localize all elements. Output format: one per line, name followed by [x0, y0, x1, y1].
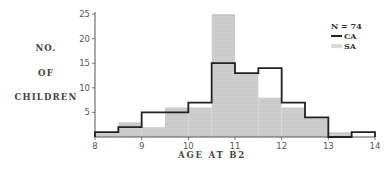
tick-label: 8	[92, 141, 97, 151]
n-annotation: N = 74	[331, 21, 362, 31]
tick-label: 12	[276, 141, 287, 151]
tick-label: 14	[370, 141, 381, 151]
stipple-swatch-icon	[331, 44, 342, 48]
legend-item-sa: SA	[331, 41, 362, 51]
tick-label: 9	[139, 141, 144, 151]
tick-label: 15	[79, 58, 90, 68]
tick-label: 5	[85, 107, 90, 117]
sa-series	[95, 14, 352, 137]
sa-bar	[235, 73, 258, 137]
line-swatch-icon	[331, 35, 342, 37]
sa-bar	[305, 117, 328, 137]
sa-bar	[212, 14, 235, 137]
y-axis-label-of: OF	[0, 68, 92, 78]
y-axis-label-no: NO.	[0, 43, 92, 53]
tick-label: 25	[79, 9, 90, 19]
sa-bar	[258, 98, 281, 137]
legend: N = 74 CA SA	[331, 21, 362, 51]
x-axis-title: AGE AT B2	[178, 150, 246, 160]
sa-bar	[142, 127, 165, 137]
sa-bar	[188, 107, 211, 137]
y-axis-label-children: CHILDREN	[0, 92, 92, 102]
tick-label: 13	[323, 141, 334, 151]
sa-bar	[282, 107, 305, 137]
legend-item-ca: CA	[331, 31, 362, 41]
sa-bar	[118, 122, 141, 137]
